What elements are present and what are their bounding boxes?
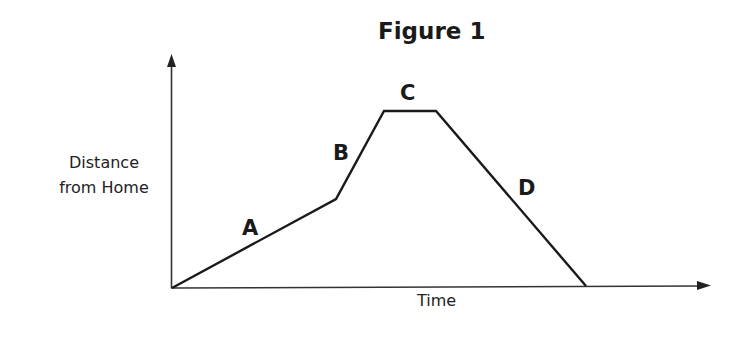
segment-label-d: D (518, 176, 535, 200)
segment-label-a: A (242, 216, 258, 240)
segment-label-c: C (400, 81, 415, 105)
segment-label-b: B (333, 141, 349, 165)
distance-time-graph (0, 0, 746, 338)
x-axis (171, 286, 700, 288)
x-axis-arrow-icon (697, 281, 711, 290)
y-axis-arrow-icon (167, 54, 176, 67)
